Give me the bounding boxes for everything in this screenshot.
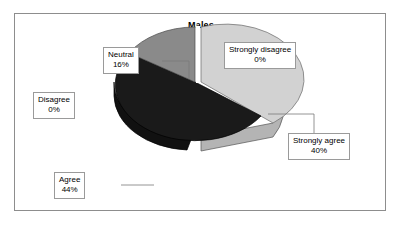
- callout-label-strongly-agree: Strongly agree: [293, 136, 345, 145]
- callout-label-disagree: Disagree: [38, 95, 70, 104]
- callout-strongly-agree: Strongly agree 40%: [288, 133, 350, 160]
- callout-agree: Agree 44%: [54, 172, 85, 199]
- callout-neutral: Neutral 16%: [103, 47, 139, 74]
- callout-label-strongly-disagree: Strongly disagree: [229, 45, 291, 54]
- callout-value-strongly-agree: 40%: [293, 146, 345, 156]
- callout-label-neutral: Neutral: [108, 50, 134, 59]
- callout-disagree: Disagree 0%: [33, 92, 75, 119]
- callout-strongly-disagree: Strongly disagree 0%: [224, 42, 296, 69]
- pie-chart-screenshot: Males Strongly disagree 0% Strongly agre…: [0, 0, 403, 225]
- callout-value-disagree: 0%: [38, 105, 70, 115]
- callout-label-agree: Agree: [59, 175, 80, 184]
- callout-value-strongly-disagree: 0%: [229, 55, 291, 65]
- callout-value-neutral: 16%: [108, 60, 134, 70]
- callout-value-agree: 44%: [59, 185, 80, 195]
